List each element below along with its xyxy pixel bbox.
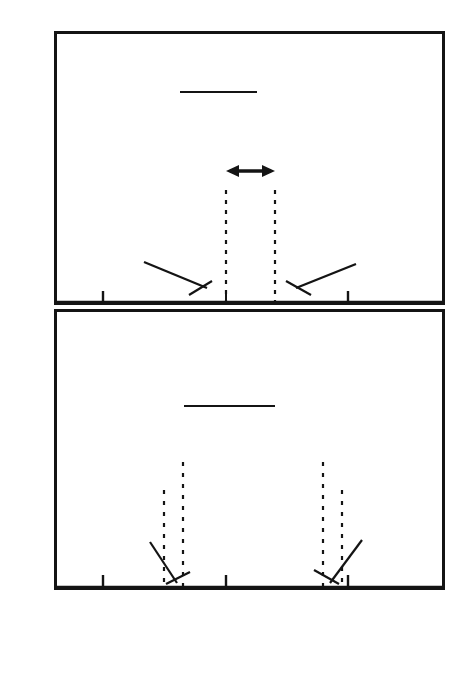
doppler-broadening-figure [0,0,469,682]
figure-background [0,0,469,682]
figure-canvas [0,0,469,682]
